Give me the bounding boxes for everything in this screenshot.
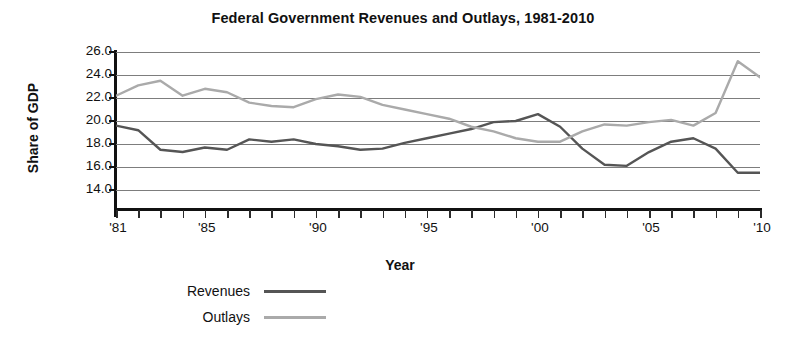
y-tick-label: 14.0 [62, 181, 112, 196]
legend-swatch [264, 316, 326, 319]
x-axis-label: Year [330, 257, 470, 273]
x-tick-mark [205, 210, 207, 218]
legend-item: Outlays [110, 304, 326, 330]
x-tick-mark [383, 210, 385, 218]
legend-label: Outlays [110, 309, 264, 325]
x-tick-label: '90 [309, 220, 327, 235]
x-tick-mark [316, 210, 318, 218]
x-tick-label: '05 [642, 220, 660, 235]
x-tick-mark [671, 210, 673, 218]
x-tick-label: '81 [109, 220, 127, 235]
x-tick-mark [605, 210, 607, 218]
y-tick-label: 26.0 [62, 43, 112, 58]
x-tick-mark [582, 210, 584, 218]
x-tick-mark [271, 210, 273, 218]
x-tick-mark [360, 210, 362, 218]
chart-legend: RevenuesOutlays [110, 278, 326, 330]
x-tick-mark [116, 210, 118, 218]
x-tick-mark [516, 210, 518, 218]
x-tick-mark [427, 210, 429, 218]
legend-swatch [264, 290, 326, 293]
x-tick-label: '00 [531, 220, 549, 235]
x-tick-mark [560, 210, 562, 218]
x-tick-mark [693, 210, 695, 218]
x-tick-mark [471, 210, 473, 218]
x-tick-mark [538, 210, 540, 218]
plot-area [116, 52, 760, 190]
chart-container: Federal Government Revenues and Outlays,… [0, 0, 806, 344]
x-tick-mark [227, 210, 229, 218]
y-tick-label: 16.0 [62, 158, 112, 173]
x-tick-mark [649, 210, 651, 218]
x-tick-label: '10 [753, 220, 771, 235]
y-axis-label: Share of GDP [25, 43, 41, 213]
x-tick-label: '95 [420, 220, 438, 235]
x-axis-spine [114, 208, 762, 211]
series-lines [116, 52, 760, 190]
y-tick-label: 22.0 [62, 89, 112, 104]
x-tick-mark [160, 210, 162, 218]
x-tick-mark [449, 210, 451, 218]
x-tick-mark [760, 210, 762, 218]
x-tick-mark [716, 210, 718, 218]
x-tick-mark [738, 210, 740, 218]
x-tick-mark [294, 210, 296, 218]
y-tick-label: 18.0 [62, 135, 112, 150]
x-tick-mark [338, 210, 340, 218]
chart-title: Federal Government Revenues and Outlays,… [0, 10, 806, 26]
x-tick-mark [494, 210, 496, 218]
series-line-revenues [116, 114, 760, 173]
x-tick-label: '85 [198, 220, 216, 235]
legend-item: Revenues [110, 278, 326, 304]
y-tick-label: 24.0 [62, 66, 112, 81]
x-tick-mark [405, 210, 407, 218]
y-tick-label: 20.0 [62, 112, 112, 127]
gridline [116, 190, 760, 191]
x-tick-mark [249, 210, 251, 218]
x-tick-mark [183, 210, 185, 218]
x-tick-mark [627, 210, 629, 218]
series-line-outlays [116, 61, 760, 142]
x-tick-mark [138, 210, 140, 218]
legend-label: Revenues [110, 283, 264, 299]
